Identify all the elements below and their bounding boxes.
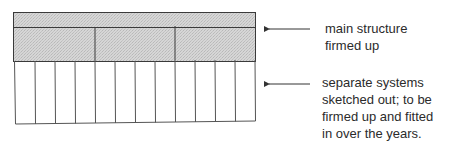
annotation-line: firmed up bbox=[325, 37, 407, 54]
annotation-separate-systems: separate systems sketched out; to be fir… bbox=[322, 74, 433, 142]
top-band bbox=[14, 13, 256, 28]
annotation-line: firmed up and fitted bbox=[322, 108, 433, 125]
bottom-band bbox=[15, 60, 256, 124]
annotation-main-structure: main structure firmed up bbox=[325, 20, 407, 54]
annotation-line: separate systems bbox=[322, 74, 433, 91]
annotation-line: sketched out; to be bbox=[322, 91, 433, 108]
annotation-line: in over the years. bbox=[322, 125, 433, 142]
middle-band bbox=[14, 26, 256, 62]
annotation-line: main structure bbox=[325, 20, 407, 37]
structure-diagram: main structure firmed up separate system… bbox=[0, 0, 451, 147]
